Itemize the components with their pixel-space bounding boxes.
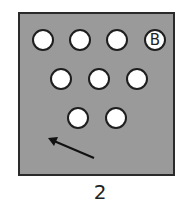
figure-caption: 2 <box>0 180 190 204</box>
